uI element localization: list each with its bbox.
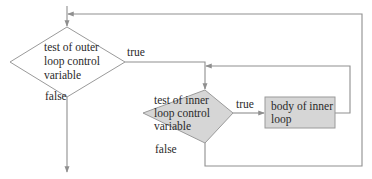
outer-true-line [125, 62, 205, 89]
inner-body-label-line-2: loop [271, 113, 292, 126]
inner-test-label-line-3: variable [154, 120, 191, 132]
outer-test-label-line-2: loop control [44, 55, 100, 68]
outer-false-label: false [45, 90, 67, 102]
outer-test-label-line-1: test of outer [44, 41, 99, 53]
inner-test-label-line-1: test of inner [154, 94, 209, 106]
nested-loop-flowchart: test of outer loop control variable true… [0, 0, 372, 179]
outer-test-label-line-3: variable [44, 69, 81, 81]
inner-true-label: true [236, 98, 254, 110]
inner-test-label-line-2: loop control [154, 107, 210, 120]
outer-test-node: test of outer loop control variable [10, 27, 125, 97]
inner-body-node: body of inner loop [265, 97, 335, 128]
inner-body-label-line-1: body of inner [271, 100, 333, 113]
inner-false-label: false [155, 143, 177, 155]
inner-test-node: test of inner loop control variable [143, 90, 233, 143]
inner-false-return-line [68, 14, 362, 166]
outer-true-label: true [127, 46, 145, 58]
